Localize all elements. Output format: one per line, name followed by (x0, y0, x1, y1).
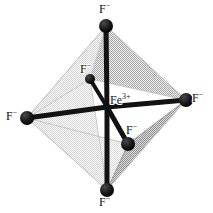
ligand-top-sphere (99, 19, 113, 33)
ligand-right-sphere (179, 93, 193, 107)
center-atom-charge: 3+ (122, 92, 131, 101)
molecule-diagram (0, 0, 213, 213)
ligand-bottom-label: F− (99, 196, 110, 208)
ligand-top-label: F− (99, 3, 110, 15)
ligand-front-sphere (121, 137, 135, 151)
center-atom-label: Fe3+ (110, 94, 131, 106)
ligand-right-charge: − (199, 90, 204, 99)
bond-top (106, 26, 107, 107)
ligand-top-charge: − (106, 1, 111, 10)
ligand-bottom-charge: − (106, 194, 111, 203)
ligand-right-label: F− (192, 92, 203, 104)
ligand-left-symbol: F (6, 109, 13, 123)
ligand-front-label: F− (126, 124, 137, 136)
ligand-front-symbol: F (126, 123, 133, 137)
ligand-bottom-symbol: F (99, 195, 106, 209)
octahedral-complex-figure: F− F− F− F− F− F− Fe3+ (0, 0, 213, 213)
ligand-back-label: F− (80, 63, 91, 75)
ligand-back-charge: − (87, 61, 92, 70)
ligand-back-symbol: F (80, 62, 87, 76)
ligand-front-charge: − (133, 122, 138, 131)
ligand-top-symbol: F (99, 2, 106, 16)
ligand-left-charge: − (13, 108, 18, 117)
ligand-left-label: F− (6, 110, 17, 122)
ligand-right-symbol: F (192, 91, 199, 105)
center-atom-symbol: Fe (110, 93, 122, 107)
ligand-left-sphere (20, 111, 34, 125)
